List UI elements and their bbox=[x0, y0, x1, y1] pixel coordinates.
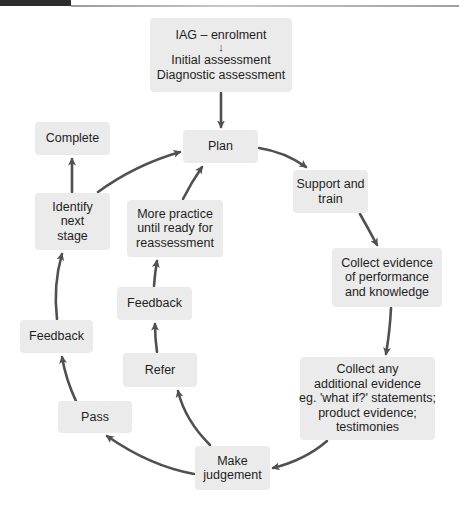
node-label: Feedback bbox=[29, 329, 84, 344]
down-arrow-icon: ↓ bbox=[218, 42, 224, 53]
entry-line-diagnostic: Diagnostic assessment bbox=[157, 68, 286, 83]
node-label: Make bbox=[217, 454, 248, 469]
node-feedback-inner: Feedback bbox=[117, 287, 192, 320]
node-feedback-outer: Feedback bbox=[20, 320, 93, 353]
node-label: Refer bbox=[145, 363, 176, 378]
node-label: reassessment bbox=[136, 236, 214, 251]
arrow-feedback-inner-to-more-practice bbox=[154, 261, 157, 286]
node-collect-evidence: Collect evidence of performance and know… bbox=[332, 248, 442, 307]
arrow-support-to-collect-evidence bbox=[360, 214, 377, 245]
node-support-and-train: Support and train bbox=[293, 170, 368, 213]
arrow-more-practice-to-plan bbox=[183, 167, 202, 199]
node-entry: IAG – enrolment ↓ Initial assessment Dia… bbox=[150, 18, 292, 92]
arrow-identify-to-plan bbox=[98, 152, 180, 192]
arrow-additional-to-judgement bbox=[273, 441, 327, 468]
node-label: Identify bbox=[52, 200, 92, 215]
node-collect-additional-evidence: Collect any additional evidence eg. 'wha… bbox=[300, 357, 435, 440]
arrow-judgement-to-pass bbox=[107, 436, 194, 474]
entry-line-iag: IAG – enrolment bbox=[175, 28, 266, 43]
node-label: testimonies bbox=[336, 420, 399, 435]
arrow-feedback-outer-to-identify bbox=[56, 254, 62, 319]
node-label: Collect any bbox=[337, 362, 399, 377]
node-label: Complete bbox=[46, 131, 100, 146]
node-label: and knowledge bbox=[345, 285, 429, 300]
node-label: of performance bbox=[345, 270, 429, 285]
arrow-judgement-to-refer bbox=[178, 391, 210, 445]
node-identify-next-stage: Identify next stage bbox=[35, 193, 110, 250]
node-label: Feedback bbox=[127, 296, 182, 311]
node-label: until ready for bbox=[137, 221, 213, 236]
arrow-refer-to-feedback-inner bbox=[155, 324, 157, 352]
node-plan: Plan bbox=[183, 130, 258, 163]
node-label: More practice bbox=[137, 207, 213, 222]
node-refer: Refer bbox=[123, 353, 197, 387]
node-label: train bbox=[318, 192, 342, 207]
entry-line-initial: Initial assessment bbox=[171, 53, 270, 68]
node-pass: Pass bbox=[58, 401, 132, 433]
node-label: product evidence; bbox=[318, 406, 417, 421]
node-label: Pass bbox=[81, 410, 109, 425]
node-label: eg. 'what if?' statements; bbox=[299, 391, 436, 406]
arrow-pass-to-feedback-outer bbox=[62, 357, 76, 401]
node-label: Support and bbox=[296, 177, 364, 192]
node-label: Collect evidence bbox=[341, 256, 433, 271]
node-make-judgement: Make judgement bbox=[195, 446, 270, 490]
arrow-plan-to-support bbox=[259, 148, 306, 167]
node-complete: Complete bbox=[35, 122, 110, 155]
arrow-collect-evidence-to-additional bbox=[386, 308, 391, 354]
node-label: additional evidence bbox=[314, 377, 421, 392]
node-label: stage bbox=[57, 229, 88, 244]
node-label: Plan bbox=[208, 139, 233, 154]
node-label: judgement bbox=[203, 468, 261, 483]
node-label: next bbox=[61, 214, 85, 229]
node-more-practice: More practice until ready for reassessme… bbox=[127, 200, 223, 257]
